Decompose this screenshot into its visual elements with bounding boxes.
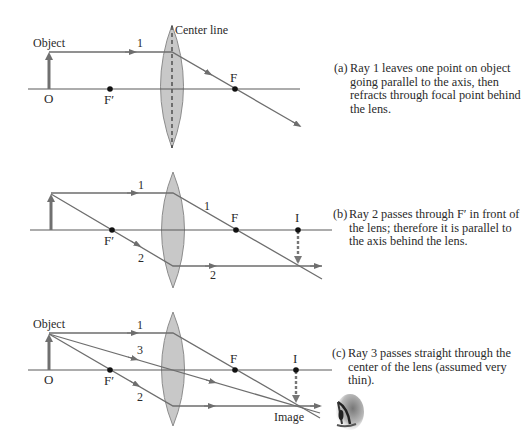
image-point	[295, 227, 301, 233]
image-point-label: I	[295, 210, 299, 225]
convex-lens	[162, 312, 185, 426]
caption-text: Ray 3 passes straight through the center…	[332, 347, 529, 388]
ray-2-label: 2	[138, 251, 144, 265]
image-point-label: I	[293, 351, 297, 366]
ray-1-label: 1	[137, 318, 143, 332]
caption-tag: (b)	[333, 208, 347, 222]
object-label: Object	[33, 36, 66, 50]
center-line-label: Center line	[175, 23, 228, 37]
f-label: F	[231, 210, 238, 225]
focal-point-front	[107, 86, 113, 92]
panel-c: Object O F′ F I Image 1 3 2	[28, 312, 364, 430]
caption-a: (a) Ray 1 leaves one point on object goi…	[334, 62, 529, 116]
origin-label: O	[44, 372, 53, 387]
caption-tag: (a)	[334, 62, 348, 76]
ray-3	[49, 334, 320, 413]
caption-text: Ray 2 passes through F′ in front of the …	[333, 208, 529, 249]
caption-b: (b) Ray 2 passes through F′ in front of …	[333, 208, 529, 249]
ray-2-label: 2	[137, 390, 143, 404]
f-prime-label: F′	[104, 92, 114, 107]
f-label: F	[230, 70, 237, 85]
image-point	[293, 367, 299, 373]
panel-a: Object O F′ F Center line 1	[28, 23, 300, 148]
focal-point-front	[107, 367, 113, 373]
ray-1-label: 1	[138, 178, 144, 192]
ray-3-label: 3	[137, 343, 143, 357]
caption-tag: (c)	[332, 347, 346, 361]
panel-b: F′ F I 1 1 2 2	[30, 172, 332, 288]
caption-c: (c) Ray 3 passes straight through the ce…	[332, 347, 529, 388]
ray-1-label: 1	[137, 36, 143, 50]
ray-2-label-after: 2	[210, 268, 216, 282]
f-label: F	[230, 351, 237, 366]
focal-point-front	[109, 227, 115, 233]
image-label: Image	[274, 410, 304, 424]
f-prime-label: F′	[104, 233, 114, 248]
focal-point-back	[233, 227, 239, 233]
f-prime-label: F′	[104, 373, 114, 388]
object-label: Object	[33, 317, 66, 331]
focal-point-back	[232, 86, 238, 92]
origin-label: O	[44, 91, 53, 106]
focal-point-back	[232, 367, 238, 373]
caption-text: Ray 1 leaves one point on object going p…	[334, 62, 529, 116]
ray-1-label-after: 1	[204, 199, 210, 213]
eye-icon	[336, 394, 364, 430]
